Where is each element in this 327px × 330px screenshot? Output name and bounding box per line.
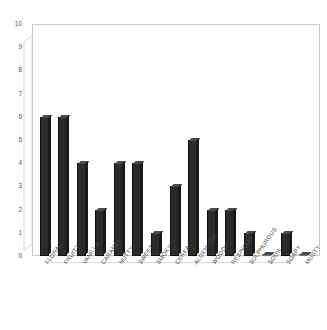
bar <box>188 140 197 256</box>
bar <box>40 117 49 256</box>
y-axis-tick-label: 6 <box>18 114 22 121</box>
bar-side-face <box>196 138 199 255</box>
bar <box>281 233 290 256</box>
y-axis: 109876543210 <box>6 24 22 256</box>
bar-side-face <box>66 115 69 255</box>
bar <box>132 163 141 256</box>
y-axis-tick-label: 5 <box>18 137 22 144</box>
bar-side-face <box>103 208 106 255</box>
bar-side-face <box>85 162 88 255</box>
bar-side-face <box>140 162 143 255</box>
y-axis-tick-label: 10 <box>15 21 22 28</box>
y-axis-tick-label: 3 <box>18 183 22 190</box>
x-axis-labels: FLORALFRUITYVANILLACARAMELNUTTYSWEETSMOK… <box>24 262 324 328</box>
y-axis-tick-label: 2 <box>18 206 22 213</box>
bar-side-face <box>122 162 125 255</box>
y-axis-tick-label: 1 <box>18 230 22 237</box>
y-axis-tick-label: 8 <box>18 67 22 74</box>
bar <box>58 117 67 256</box>
plot-area: 109876543210 FLORALFRUITYVANILLACARAMELN… <box>0 0 327 330</box>
y-axis-tick-label: 7 <box>18 90 22 97</box>
y-axis-tick-label: 9 <box>18 44 22 51</box>
bar <box>151 233 160 256</box>
bar-side-face <box>48 115 51 255</box>
y-axis-tick-label: 0 <box>18 253 22 260</box>
y-axis-tick-label: 4 <box>18 160 22 167</box>
bar-side-face <box>215 208 218 255</box>
bar <box>77 163 86 256</box>
bar-chart: 109876543210 FLORALFRUITYVANILLACARAMELN… <box>0 0 327 330</box>
bar-side-face <box>233 208 236 255</box>
bar-side-face <box>178 185 181 255</box>
